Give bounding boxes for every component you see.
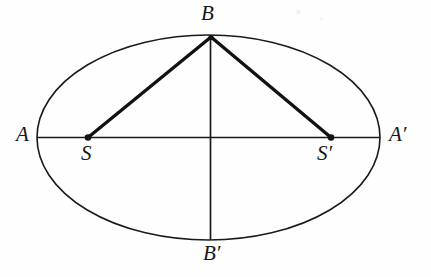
label-vertex-b-prime: B′ (203, 243, 220, 264)
ellipse-figure: A A′ B B′ S S′ (0, 0, 431, 277)
focus-left-point (85, 134, 92, 141)
apex-vertex-point (208, 35, 213, 40)
label-vertex-a-prime: A′ (389, 124, 406, 145)
label-vertex-a: A (16, 124, 29, 145)
focus-right-point (328, 134, 335, 141)
label-vertex-b: B (201, 3, 214, 24)
ellipse-diagram-canvas (0, 0, 431, 277)
focal-radius-right-line (211, 37, 331, 138)
focal-radius-left-line (88, 37, 211, 138)
label-focus-s: S (81, 143, 92, 164)
label-focus-s-prime: S′ (317, 143, 332, 164)
